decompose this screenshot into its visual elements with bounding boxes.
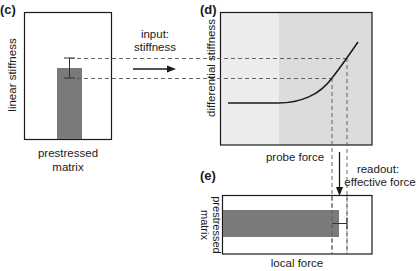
- panel-e-ylabel-line2: matrix: [199, 190, 211, 260]
- panel-d-region-low: [220, 12, 279, 145]
- panel-d-xlabel: probe force: [260, 150, 330, 164]
- panel-e-label: (e): [200, 168, 216, 183]
- panel-e-bar: [223, 210, 339, 237]
- panel-c-xlabel-line1: prestressed: [28, 146, 108, 160]
- panel-c-ylabel: linear stiffness: [6, 25, 20, 125]
- panel-c-label: (c): [0, 2, 16, 17]
- panel-e-ylabel: prestressed matrix: [199, 190, 223, 260]
- readout-label-line1: readout:: [348, 162, 408, 176]
- input-label-line1: input:: [120, 27, 190, 41]
- panel-e-ylabel-line1: prestressed: [211, 190, 223, 260]
- panel-e-xlabel: local force: [262, 256, 332, 270]
- panel-c-xlabel-line2: matrix: [28, 160, 108, 174]
- readout-label-line2: effective force: [340, 175, 420, 189]
- input-label-line2: stiffness: [120, 40, 190, 54]
- panel-d-ylabel: differential stiffness: [205, 3, 219, 133]
